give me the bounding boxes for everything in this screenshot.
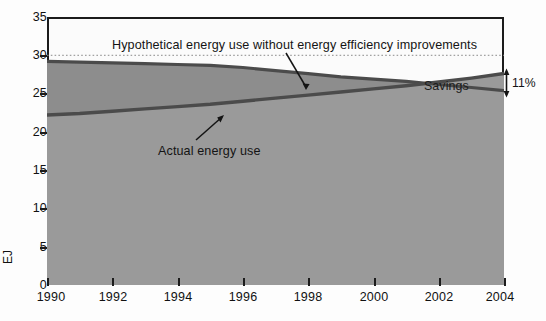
x-tick-label-1992: 1992 [83, 291, 143, 304]
x-tick-mark-1990 [47, 278, 49, 286]
x-tick-label-2004: 2004 [470, 291, 530, 304]
y-tick-mark-25 [40, 93, 47, 95]
x-tick-mark-2004 [504, 278, 506, 286]
y-axis-title: EJ [2, 250, 14, 264]
x-tick-mark-1998 [308, 278, 310, 286]
y-tick-mark-30 [40, 55, 47, 57]
savings-percent-label: 11% [512, 76, 536, 90]
actual-series-label: Actual energy use [158, 144, 261, 158]
x-tick-label-1990: 1990 [21, 291, 81, 304]
x-tick-label-2002: 2002 [409, 291, 469, 304]
x-tick-mark-1994 [178, 278, 180, 286]
y-tick-mark-5 [40, 247, 47, 249]
y-tick-mark-20 [40, 132, 47, 134]
hypothetical-series-label: Hypothetical energy use without energy e… [112, 38, 477, 52]
y-tick-mark-15 [40, 170, 47, 172]
x-tick-label-1994: 1994 [148, 291, 208, 304]
savings-percent-bracket [504, 69, 510, 98]
y-tick-mark-10 [40, 208, 47, 210]
y-axis: 35 30 25 20 15 10 5 0 [0, 0, 47, 321]
x-tick-mark-2002 [439, 278, 441, 286]
x-tick-mark-1996 [243, 278, 245, 286]
x-tick-mark-2000 [374, 278, 376, 286]
x-tick-label-1996: 1996 [213, 291, 273, 304]
x-tick-label-1998: 1998 [278, 291, 338, 304]
savings-band-label: Savings [424, 79, 469, 93]
x-tick-mark-1992 [112, 278, 114, 286]
energy-use-area-chart: 35 30 25 20 15 10 5 0 EJ 1990 1992 1994 … [0, 0, 546, 321]
y-tick-label-35: 35 [11, 11, 47, 23]
x-tick-label-2000: 2000 [344, 291, 404, 304]
plot-area [47, 17, 504, 285]
